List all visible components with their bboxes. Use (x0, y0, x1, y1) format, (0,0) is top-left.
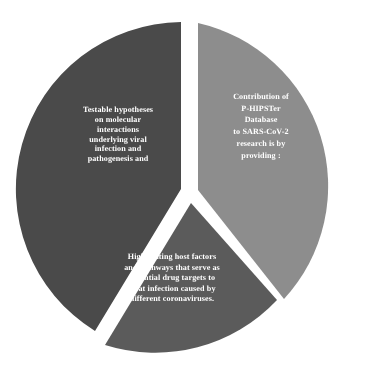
pie-chart-canvas (0, 0, 369, 371)
pie-chart-figure: Testable hypotheses on molecular interac… (0, 0, 369, 371)
